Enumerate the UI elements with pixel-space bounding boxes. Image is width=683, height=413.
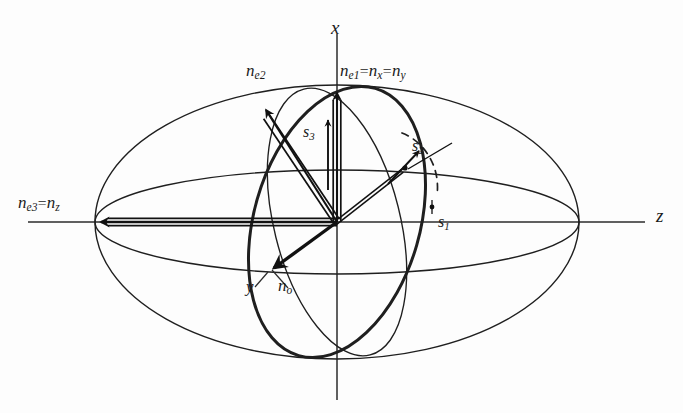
y-leader [255,272,268,287]
ne3-eq: = [37,194,46,211]
ne2-label: ne2 [246,62,265,79]
s1-label: s1 [438,214,450,230]
y-axis-label: y [246,278,254,295]
wave-normal-construction [328,120,452,225]
s2-arrow [388,151,419,184]
ne3-n: n [18,193,27,212]
ne1-label: ne1=nx=ny [340,62,406,79]
ne1-n: n [340,61,349,80]
ne2-n: n [246,61,255,80]
ne1-sub3: y [400,69,405,82]
no-vector [274,222,337,268]
principal-index-vectors [101,93,341,268]
ne2-sub: e2 [255,69,266,82]
ne1-sub2: x [377,69,382,82]
s3-label: s3 [303,124,315,140]
ne3-label: ne3=nz [18,194,60,211]
s1-sub: 1 [444,220,449,232]
x-axis-label: x [331,18,339,37]
s3-sub: 3 [309,130,314,142]
ne3-vector [101,218,337,225]
no-label: no [278,277,292,294]
ne3-sub: e3 [27,201,38,214]
ne1-eq1: = [359,62,368,79]
ne3-sub2: z [55,201,60,214]
ne1-vector [333,93,341,222]
s2-sub: 2 [418,144,423,156]
z-axis-label: z [656,206,663,225]
no-sub: o [287,284,293,297]
s2-label: s2 [412,138,424,154]
ne1-eq2: = [382,62,391,79]
no-n: n [278,276,287,295]
ne1-sub: e1 [349,69,360,82]
